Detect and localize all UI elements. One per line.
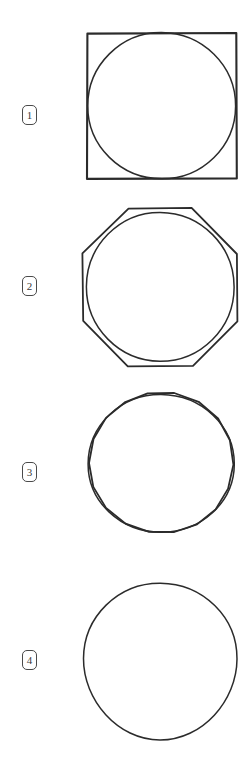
figure-4-svg (70, 573, 248, 753)
step-label-3-text: 3 (27, 467, 33, 478)
inscribed-circle-2 (86, 212, 234, 361)
step-label-4-text: 4 (27, 655, 33, 666)
octagon-outline (82, 208, 237, 367)
step-label-1-text: 1 (27, 110, 33, 121)
figure-2-svg (70, 198, 248, 378)
step-label-2: 2 (22, 276, 37, 296)
step-label-2-text: 2 (27, 281, 33, 292)
inscribed-circle-1 (88, 32, 236, 178)
figure-row-1: 1 (0, 0, 248, 200)
figure-row-3: 3 (0, 380, 248, 560)
step-label-1: 1 (22, 105, 37, 125)
figure-1-svg (70, 15, 248, 200)
limit-circle (83, 583, 237, 740)
step-label-3: 3 (22, 462, 37, 482)
figure-3-svg (70, 385, 248, 560)
figure-art-4 (70, 573, 248, 753)
figure-art-2 (70, 198, 248, 378)
figure-row-4: 4 (0, 570, 248, 770)
figure-art-3 (70, 385, 248, 560)
figure-art-1 (70, 15, 248, 200)
figure-row-2: 2 (0, 190, 248, 375)
step-label-4: 4 (22, 650, 37, 670)
figure-sheet: 1 2 3 (0, 0, 248, 772)
